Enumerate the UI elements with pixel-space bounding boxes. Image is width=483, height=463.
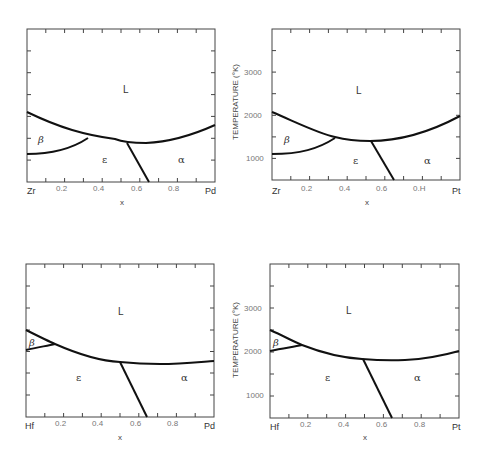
phase-label-epsilon: ε	[102, 154, 107, 165]
x-left-element: Zr	[272, 186, 281, 196]
x-tick-label: 0.4	[338, 420, 350, 429]
phase-label-epsilon: ε	[325, 372, 330, 383]
x-ticks-top	[45, 264, 195, 268]
phase-label-beta: β	[37, 134, 44, 145]
y-ticks	[27, 51, 215, 160]
y-ticks	[270, 286, 459, 396]
x-tick-label: 0.6	[130, 419, 142, 428]
x-tick-label: 0.2	[55, 419, 67, 428]
x-left-element: Zr	[27, 186, 36, 196]
phase-diagram-figure: L β ε α Zr Pd 0.2 0.4 0.6 0.8 x	[0, 0, 483, 463]
x-right-element: Pt	[452, 186, 461, 196]
x-tick-label: 0.6	[376, 420, 388, 429]
x-axis-label: x	[363, 433, 367, 442]
x-ticks-bottom	[46, 178, 196, 182]
x-tick-label: 0.2	[56, 184, 68, 193]
phase-label-alpha: α	[414, 372, 421, 383]
y-tick-label: 1000	[246, 391, 264, 400]
plot-frame	[270, 264, 459, 418]
x-tick-label: 0.4	[339, 184, 351, 193]
phase-label-liquid: L	[123, 84, 129, 95]
x-tick-label: 0.6	[131, 184, 143, 193]
x-ticks-top	[289, 264, 440, 268]
phase-label-liquid: L	[356, 85, 362, 96]
x-ticks-bottom	[45, 413, 195, 417]
y-ticks	[272, 51, 460, 159]
beta-epsilon-boundary	[27, 138, 88, 154]
x-axis-label: x	[365, 198, 369, 207]
plot-frame	[272, 29, 460, 180]
phase-label-beta: β	[272, 337, 279, 348]
liquidus-curve	[272, 112, 460, 141]
x-tick-label: 0.8	[414, 420, 426, 429]
panel-zr-pd: L β ε α Zr Pd 0.2 0.4 0.6 0.8 x	[27, 29, 216, 207]
phase-label-beta: β	[28, 337, 35, 348]
y-tick-label: 3000	[244, 304, 262, 313]
x-right-element: Pd	[205, 186, 216, 196]
panel-hf-pt: L β ε α 3000 2000 1000 TEMPERATURE (°K) …	[231, 264, 461, 442]
phase-label-alpha: α	[181, 372, 188, 383]
phase-label-epsilon: ε	[76, 372, 81, 383]
panel-zr-pt: L β ε α 3000 2000 1000 TEMPERATURE (°K) …	[231, 29, 461, 207]
y-axis-label: TEMPERATURE (°K)	[231, 302, 240, 378]
phase-label-beta: β	[283, 134, 290, 145]
plot-frame	[27, 29, 215, 182]
y-tick-label: 2000	[244, 347, 262, 356]
plot-frame	[26, 264, 214, 417]
x-ticks-top	[291, 29, 441, 33]
epsilon-alpha-boundary	[127, 143, 149, 182]
x-tick-label: 0.8	[167, 419, 179, 428]
x-tick-label: 0.6	[376, 184, 388, 193]
x-tick-label: 0.2	[301, 184, 313, 193]
x-tick-label: 0.8	[168, 184, 180, 193]
y-tick-label: 2000	[244, 111, 262, 120]
x-right-element: Pt	[452, 422, 461, 432]
y-tick-label: 3000	[244, 68, 262, 77]
phase-label-liquid: L	[346, 305, 352, 316]
x-ticks-bottom	[289, 414, 440, 418]
x-axis-label: x	[120, 198, 124, 207]
panel-hf-pd: L β ε α Hf Pd 0.2 0.4 0.6 0.8 x	[25, 264, 215, 442]
x-left-element: Hf	[25, 421, 34, 431]
x-tick-label: 0.H	[413, 184, 426, 193]
phase-label-epsilon: ε	[353, 155, 358, 166]
epsilon-alpha-boundary	[120, 362, 147, 417]
x-tick-label: 0.4	[92, 419, 104, 428]
beta-epsilon-boundary	[272, 138, 335, 154]
x-ticks-bottom	[291, 176, 441, 180]
x-right-element: Pd	[204, 421, 215, 431]
y-axis-label: TEMPERATURE (°K)	[231, 64, 240, 140]
phase-label-alpha: α	[178, 154, 185, 165]
x-axis-label: x	[118, 433, 122, 442]
phase-label-liquid: L	[118, 306, 124, 317]
liquidus-curve	[26, 330, 214, 364]
y-tick-label: 1000	[246, 154, 264, 163]
x-left-element: Hf	[270, 422, 279, 432]
liquidus-curve	[27, 112, 215, 143]
phase-label-alpha: α	[424, 155, 431, 166]
epsilon-alpha-boundary	[371, 141, 394, 180]
x-tick-label: 0.4	[93, 184, 105, 193]
x-ticks-top	[46, 29, 196, 33]
x-tick-label: 0.2	[300, 420, 312, 429]
epsilon-alpha-boundary	[363, 359, 392, 418]
